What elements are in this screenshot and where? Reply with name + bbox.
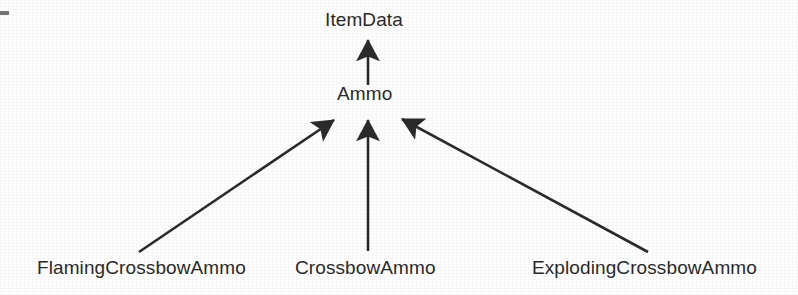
edge-explodingcrossbowammo-to-ammo <box>402 119 648 252</box>
class-node-crossbowammo: CrossbowAmmo <box>295 257 436 279</box>
class-node-itemdata: ItemData <box>325 9 403 31</box>
edge-flamingcrossbowammo-to-ammo <box>139 120 334 252</box>
class-node-ammo: Ammo <box>337 83 392 105</box>
class-hierarchy-diagram: ItemData Ammo FlamingCrossbowAmmo Crossb… <box>0 0 798 295</box>
scan-edge-mark <box>0 11 9 15</box>
class-node-explodingcrossbowammo: ExplodingCrossbowAmmo <box>532 257 757 279</box>
diagram-edges-layer <box>0 0 798 295</box>
class-node-flamingcrossbowammo: FlamingCrossbowAmmo <box>37 257 246 279</box>
